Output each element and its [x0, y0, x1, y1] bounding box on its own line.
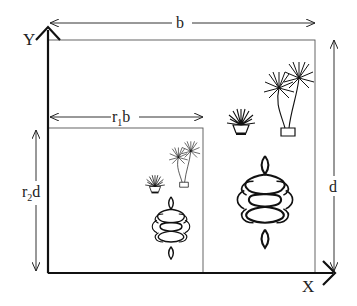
inner-rectangle [48, 128, 203, 273]
r1b-label: r1b [112, 108, 130, 128]
x-axis-label: X [302, 277, 314, 296]
b-label: b [176, 14, 184, 31]
potted-plant-small-icon [145, 175, 165, 193]
potted-plant-icon [227, 109, 255, 135]
y-axis-label: Y [23, 30, 35, 49]
scaling-diagram: Y X b r1b d r2d [0, 0, 357, 306]
potted-palm-small-icon [169, 141, 200, 187]
outer-rectangle [48, 40, 315, 273]
d-label: d [329, 178, 337, 195]
potted-palm-icon [264, 62, 314, 136]
celtic-knot-small-icon [152, 197, 189, 259]
celtic-knot-icon [237, 156, 292, 248]
r2d-label: r2d [22, 183, 40, 203]
